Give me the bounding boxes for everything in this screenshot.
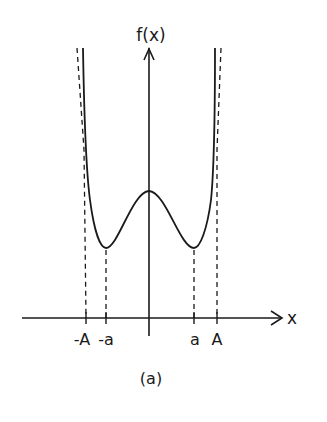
y-axis-label: f(x)	[136, 25, 165, 45]
x-axis	[22, 311, 282, 325]
figure-caption: (a)	[140, 369, 162, 388]
tick-label-neg-A: -A	[74, 330, 90, 349]
double-well-diagram: f(x) x -A -a a A (a)	[0, 0, 327, 422]
tick-label-pos-A: A	[212, 330, 223, 349]
x-axis-label: x	[287, 308, 297, 328]
tick-label-neg-a: -a	[98, 330, 114, 349]
tick-label-pos-a: a	[190, 330, 200, 349]
